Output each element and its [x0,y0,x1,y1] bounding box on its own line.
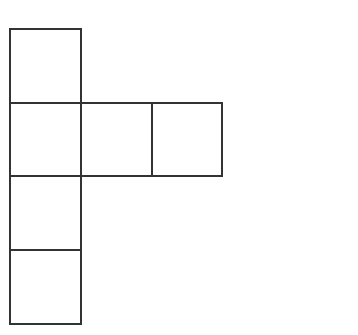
net-square-row2-col1 [10,103,81,176]
net-square-row2-col2 [81,103,152,176]
net-square-row3 [10,176,81,250]
net-square-row4 [10,250,81,324]
net-square-top [10,29,81,103]
net-square-row2-col3 [152,103,222,176]
cube-net-diagram [0,0,358,335]
